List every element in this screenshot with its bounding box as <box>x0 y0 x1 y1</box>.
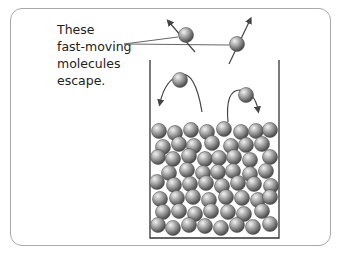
liquid-molecule <box>198 219 213 234</box>
escaping-molecule-left <box>169 22 195 52</box>
liquid-molecule <box>199 176 214 191</box>
liquid-molecule <box>214 221 229 236</box>
returning-molecule-left <box>160 73 202 113</box>
liquid-molecule <box>167 178 182 193</box>
liquid-molecule <box>217 122 232 137</box>
liquid-molecule <box>221 205 236 220</box>
liquid-molecule <box>152 124 167 139</box>
liquid-molecule <box>183 177 198 192</box>
liquid-molecule <box>151 218 166 233</box>
liquid-molecule <box>172 137 187 152</box>
liquid-molecule <box>263 217 278 232</box>
pointer-lines <box>124 37 229 45</box>
liquid-molecule <box>182 149 197 164</box>
liquid-molecule <box>204 204 219 219</box>
liquid-molecule <box>198 152 213 167</box>
liquid-molecule <box>186 190 201 205</box>
liquid-molecule <box>150 175 165 190</box>
liquid-molecule <box>235 191 250 206</box>
liquid-molecule <box>255 204 270 219</box>
liquid-molecule <box>151 150 166 165</box>
liquid-molecule <box>182 218 197 233</box>
liquid-molecule <box>166 152 181 167</box>
liquid-molecule <box>205 136 220 151</box>
evaporation-diagram <box>0 0 340 259</box>
liquid-molecule <box>243 153 258 168</box>
liquid-molecule <box>212 151 227 166</box>
liquid-molecule <box>211 165 226 180</box>
liquid-molecule <box>263 150 278 165</box>
liquid-molecules <box>150 122 279 236</box>
liquid-molecule <box>246 220 261 235</box>
liquid-molecule <box>219 190 234 205</box>
liquid-molecule <box>153 192 168 207</box>
liquid-molecule <box>184 123 199 138</box>
liquid-molecule <box>263 190 278 205</box>
liquid-molecule <box>180 163 195 178</box>
liquid-molecule <box>239 138 254 153</box>
liquid-molecule <box>259 164 274 179</box>
liquid-molecule <box>255 137 270 152</box>
liquid-molecule <box>230 218 245 233</box>
liquid-molecule <box>172 204 187 219</box>
liquid-molecule <box>263 123 278 138</box>
liquid-molecule <box>166 221 181 236</box>
liquid-molecule <box>170 191 185 206</box>
liquid-molecule <box>247 177 262 192</box>
liquid-molecule <box>231 176 246 191</box>
escaping-molecule-right <box>229 20 250 64</box>
liquid-molecule <box>227 150 242 165</box>
returning-molecule-right <box>228 88 259 123</box>
